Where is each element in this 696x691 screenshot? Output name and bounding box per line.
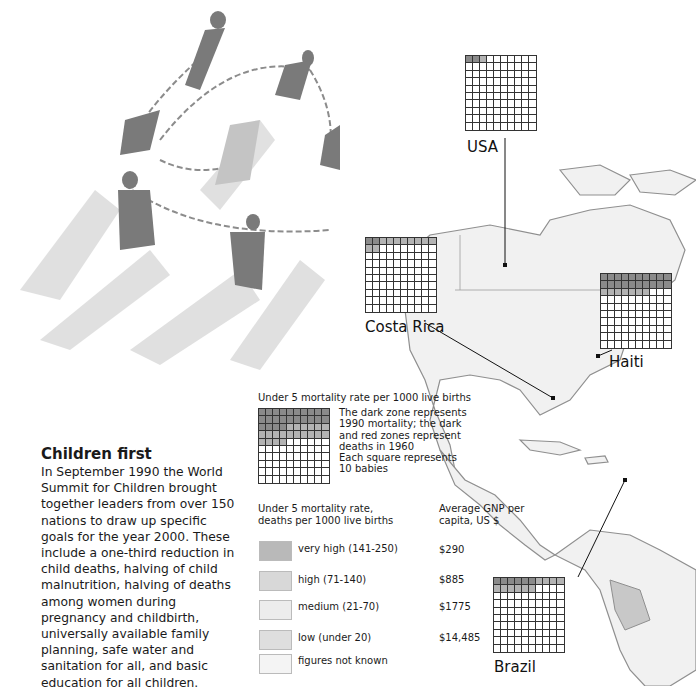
grid-cell (473, 78, 480, 85)
grid-cell (494, 63, 501, 70)
grid-cell (529, 615, 536, 622)
grid-cell (308, 409, 315, 416)
grid-cell (308, 439, 315, 446)
grid-cell (515, 615, 522, 622)
grid-cell (508, 578, 515, 585)
grid-cell (366, 282, 373, 289)
grid-cell (629, 326, 636, 333)
grid-cell (487, 93, 494, 100)
grid-cell (494, 622, 501, 629)
grid-cell (259, 446, 266, 453)
grid-cell (615, 304, 622, 311)
grid-cell (387, 297, 394, 304)
grid-cell (664, 304, 671, 311)
grid-cell (536, 622, 543, 629)
grid-cell (550, 585, 557, 592)
grid-cell (422, 275, 429, 282)
grid-cell (401, 268, 408, 275)
grid-cell (508, 608, 515, 615)
grid-cell (508, 645, 515, 652)
grid-cell (494, 593, 501, 600)
grid-cell (308, 431, 315, 438)
grid-cell (501, 100, 508, 107)
grid-cell (480, 56, 487, 63)
grid-cell (501, 123, 508, 130)
grid-cell (273, 439, 280, 446)
grid-cell (650, 341, 657, 348)
grid-cell (615, 289, 622, 296)
grid-cell (273, 461, 280, 468)
grid-cell (394, 238, 401, 245)
grid-cell (308, 476, 315, 483)
grid-cell (622, 304, 629, 311)
grid-cell (636, 326, 643, 333)
grid-cell (408, 238, 415, 245)
grid-cell (508, 78, 515, 85)
grid-cell (301, 468, 308, 475)
grid-cell (508, 63, 515, 70)
grid-cell (287, 424, 294, 431)
grid-cell (322, 476, 329, 483)
grid-cell (515, 585, 522, 592)
grid-cell (494, 600, 501, 607)
grid-cell (508, 593, 515, 600)
grid-cell (522, 630, 529, 637)
grid-cell (387, 275, 394, 282)
grid-cell (501, 78, 508, 85)
grid-cell (557, 593, 564, 600)
grid-cell (308, 461, 315, 468)
grid-cell (515, 115, 522, 122)
grid-cell (301, 461, 308, 468)
grid-cell (522, 578, 529, 585)
legend-label-low: low (under 20) (298, 632, 371, 643)
grid-cell (280, 461, 287, 468)
grid-cell (629, 304, 636, 311)
grid-cell (287, 461, 294, 468)
grid-cell (615, 311, 622, 318)
grid-cell (466, 71, 473, 78)
brazil-label: Brazil (494, 660, 536, 675)
grid-cell (557, 585, 564, 592)
grid-cell (315, 409, 322, 416)
grid-cell (501, 608, 508, 615)
grid-cell (636, 333, 643, 340)
grid-cell (322, 416, 329, 423)
grid-cell (508, 622, 515, 629)
grid-cell (301, 476, 308, 483)
grid-cell (501, 71, 508, 78)
grid-cell (643, 311, 650, 318)
grid-cell (529, 115, 536, 122)
grid-cell (259, 439, 266, 446)
legend-label-medium: medium (21-70) (298, 601, 379, 612)
grid-cell (408, 253, 415, 260)
grid-cell (315, 446, 322, 453)
grid-cell (557, 600, 564, 607)
grid-cell (480, 115, 487, 122)
grid-cell (380, 282, 387, 289)
grid-cell (515, 637, 522, 644)
grid-cell (657, 274, 664, 281)
grid-cell (259, 416, 266, 423)
grid-cell (487, 71, 494, 78)
grid-cell (643, 304, 650, 311)
grid-cell (557, 637, 564, 644)
grid-cell (601, 311, 608, 318)
grid-cell (557, 615, 564, 622)
grid-cell (287, 476, 294, 483)
grid-cell (487, 86, 494, 93)
grid-cell (529, 585, 536, 592)
grid-cell (522, 93, 529, 100)
grid-cell (664, 274, 671, 281)
grid-cell (380, 290, 387, 297)
grid-cell (480, 63, 487, 70)
grid-cell (487, 123, 494, 130)
grid-cell (415, 290, 422, 297)
grid-cell (415, 282, 422, 289)
grid-cell (664, 281, 671, 288)
grid-cell (629, 281, 636, 288)
grid-cell (322, 453, 329, 460)
gnp-medium: $1775 (439, 601, 471, 612)
grid-cell (557, 622, 564, 629)
grid-cell (429, 260, 436, 267)
grid-cell (322, 446, 329, 453)
